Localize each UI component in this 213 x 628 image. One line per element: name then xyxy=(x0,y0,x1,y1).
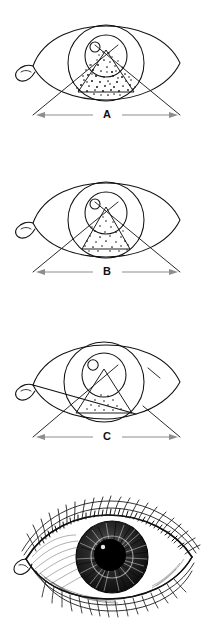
eye-diagram-figure: A xyxy=(0,0,213,628)
canthus-fold xyxy=(19,565,28,568)
dimension-arrowhead-left-b xyxy=(36,269,45,275)
panel-b-label: B xyxy=(103,265,111,277)
eye-outline-c-upper xyxy=(33,345,180,414)
panel-b-drawing: B xyxy=(0,165,213,290)
caruncle-fold-c xyxy=(21,390,31,392)
ray-left-a xyxy=(33,45,118,115)
limbus-b xyxy=(68,182,144,258)
realistic-eye-illustration xyxy=(0,485,213,628)
dimension-arrowhead-right-a xyxy=(169,112,178,118)
pupil-highlight-a xyxy=(90,42,100,52)
panel-c: C xyxy=(0,325,213,455)
pupil xyxy=(94,539,126,571)
eye-outline-b xyxy=(33,183,180,257)
caruncle-b xyxy=(16,222,35,238)
pupil-highlight-b xyxy=(90,199,100,209)
caruncle-a xyxy=(16,65,35,81)
ray-left-b xyxy=(33,202,118,272)
light-wedge-c xyxy=(76,369,132,413)
light-wedge-b xyxy=(82,207,130,249)
pupil-highlight-c xyxy=(88,360,98,370)
panel-c-label: C xyxy=(103,430,111,442)
panel-a: A xyxy=(0,8,213,133)
dimension-arrowhead-right-c xyxy=(169,434,178,440)
panel-c-drawing: C xyxy=(0,325,213,455)
ray-right-c-segment2 xyxy=(148,368,160,378)
panel-a-drawing: A xyxy=(0,8,213,133)
caruncle-fold-b xyxy=(21,228,31,230)
dimension-arrowhead-left-c xyxy=(36,434,45,440)
iris-b xyxy=(85,192,127,234)
eye-outline-a xyxy=(33,26,180,100)
panel-b: B xyxy=(0,165,213,290)
panel-photo xyxy=(0,485,213,628)
caruncle-c xyxy=(16,384,35,400)
corneal-catchlight xyxy=(101,545,105,549)
panel-a-label: A xyxy=(103,108,111,120)
ray-right-c-segment1 xyxy=(143,406,180,437)
caruncle-fold-a xyxy=(21,71,31,73)
dimension-arrowhead-right-b xyxy=(169,269,178,275)
dimension-arrowhead-left-a xyxy=(36,112,45,118)
